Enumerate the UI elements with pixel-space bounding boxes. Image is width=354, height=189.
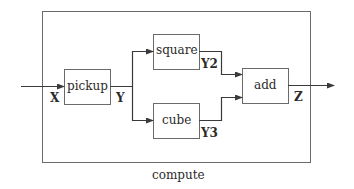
y-to-square-arrow xyxy=(110,52,153,87)
y-to-cube-arrow xyxy=(133,87,154,121)
signal-z-label: Z xyxy=(294,91,303,103)
signal-y2-label: Y2 xyxy=(201,58,218,70)
pickup-label: pickup xyxy=(67,80,108,92)
add-label: add xyxy=(254,79,277,91)
y3-to-add-arrow xyxy=(199,98,242,121)
diagram-caption: compute xyxy=(152,169,205,181)
signal-x-label: X xyxy=(50,92,59,104)
block-diagram: pickup square cube add X Y Y2 Y3 Z compu… xyxy=(0,0,354,189)
square-label: square xyxy=(156,44,198,56)
cube-label: cube xyxy=(162,114,191,126)
signal-y-label: Y xyxy=(116,92,125,104)
signal-y3-label: Y3 xyxy=(201,127,218,139)
